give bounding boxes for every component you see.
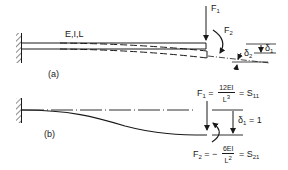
fixed-support-wall-icon [16,33,22,63]
deflected-beam-dashed [60,43,207,58]
beam-properties-label: E,I,L [65,30,84,39]
delta2-label: δ2 [244,49,252,59]
delta1-equals-one-label: δ1 = 1 [238,116,262,126]
f1-stiffness-equation: F1 = 12EI L3 = S11 [197,84,259,103]
f1-label: F1 [211,4,220,14]
f2-fraction: 6EI L2 [222,145,235,164]
moment-f2-arrow [212,123,219,142]
part-b-label: (b) [44,130,55,139]
delta1-label: δ1 [265,44,273,54]
part-a-group [16,6,276,70]
f2-label: F2 [224,26,233,36]
delta2-arrow-top [238,53,241,59]
moment-f2-arrow [213,30,223,53]
fixed-support-wall-icon [16,98,22,123]
delta2-arrow-bottom [236,65,237,70]
part-a-label: (a) [48,70,59,79]
f1-fraction: 12EI L3 [218,84,234,103]
undeformed-beam [22,43,206,49]
f2-stiffness-equation: F2 = − 6EI L2 = S21 [193,145,259,164]
